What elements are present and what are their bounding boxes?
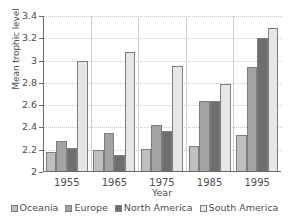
legend-label: South America — [209, 203, 279, 213]
legend-label: Oceania — [20, 203, 59, 213]
bar-oceania-1995 — [236, 135, 247, 172]
bar-europe-1995 — [247, 67, 258, 172]
legend-label: Europe — [74, 203, 107, 213]
y-axis-title: Mean trophic level — [11, 0, 21, 109]
y-tick-mark — [39, 83, 43, 84]
y-tick-label: 2.6 — [22, 100, 37, 110]
bar-north-america-1985 — [210, 101, 221, 172]
bar-south-america-1955 — [77, 61, 88, 172]
group-separator — [138, 16, 139, 172]
chart-legend: OceaniaEuropeNorth AmericaSouth America — [0, 203, 289, 213]
y-tick-label: 2.4 — [22, 122, 37, 132]
x-axis-line — [43, 171, 281, 172]
y-axis-line — [43, 16, 44, 172]
y-tick-mark — [39, 105, 43, 106]
y-tick-mark — [39, 127, 43, 128]
y-tick-mark — [39, 16, 43, 17]
bar-group — [233, 16, 281, 172]
y-tick-mark — [39, 172, 43, 173]
legend-item-south-america[interactable]: South America — [200, 203, 279, 213]
bar-group — [138, 16, 186, 172]
y-tick-label: 2 — [31, 167, 37, 177]
bar-group — [186, 16, 234, 172]
group-separator — [91, 16, 92, 172]
bar-europe-1955 — [56, 141, 67, 172]
bar-europe-1975 — [151, 125, 162, 172]
bar-europe-1985 — [199, 101, 210, 172]
x-axis-title: Year — [43, 188, 281, 198]
bar-south-america-1975 — [172, 66, 183, 172]
legend-swatch-icon — [200, 205, 207, 212]
bar-group — [43, 16, 91, 172]
bar-group — [91, 16, 139, 172]
legend-label: North America — [124, 203, 193, 213]
bar-europe-1965 — [104, 133, 115, 172]
y-tick-mark — [39, 38, 43, 39]
y-tick-label: 2.8 — [22, 78, 37, 88]
bar-oceania-1985 — [189, 146, 200, 172]
bar-south-america-1985 — [220, 84, 231, 172]
bar-oceania-1975 — [141, 149, 152, 172]
legend-item-oceania[interactable]: Oceania — [11, 203, 59, 213]
x-tick-label: 1985 — [197, 177, 222, 188]
x-tick-label: 1955 — [54, 177, 79, 188]
x-tick-label: 1965 — [102, 177, 127, 188]
x-tick-label: 1995 — [244, 177, 269, 188]
legend-item-north-america[interactable]: North America — [115, 203, 193, 213]
bar-oceania-1955 — [46, 152, 57, 172]
y-tick-label: 3.2 — [22, 33, 37, 43]
bar-north-america-1955 — [67, 148, 78, 173]
y-tick-mark — [39, 61, 43, 62]
bar-oceania-1965 — [93, 150, 104, 172]
bar-north-america-1965 — [114, 155, 125, 172]
y-tick-label: 2.2 — [22, 145, 37, 155]
legend-swatch-icon — [65, 205, 72, 212]
group-separator — [233, 16, 234, 172]
plot-area: 22.22.42.62.833.23.4 1955196519751985199… — [43, 16, 281, 172]
bar-south-america-1995 — [268, 28, 279, 172]
bar-chart: Mean trophic level 22.22.42.62.833.23.4 … — [0, 0, 289, 220]
legend-swatch-icon — [115, 205, 122, 212]
bar-north-america-1975 — [162, 131, 173, 172]
bar-north-america-1995 — [257, 38, 268, 172]
y-tick-label: 3 — [31, 56, 37, 66]
bar-south-america-1965 — [125, 52, 136, 172]
group-separator — [186, 16, 187, 172]
y-tick-label: 3.4 — [22, 11, 37, 21]
legend-item-europe[interactable]: Europe — [65, 203, 107, 213]
y-tick-mark — [39, 150, 43, 151]
legend-swatch-icon — [11, 205, 18, 212]
bars-layer — [43, 16, 281, 172]
